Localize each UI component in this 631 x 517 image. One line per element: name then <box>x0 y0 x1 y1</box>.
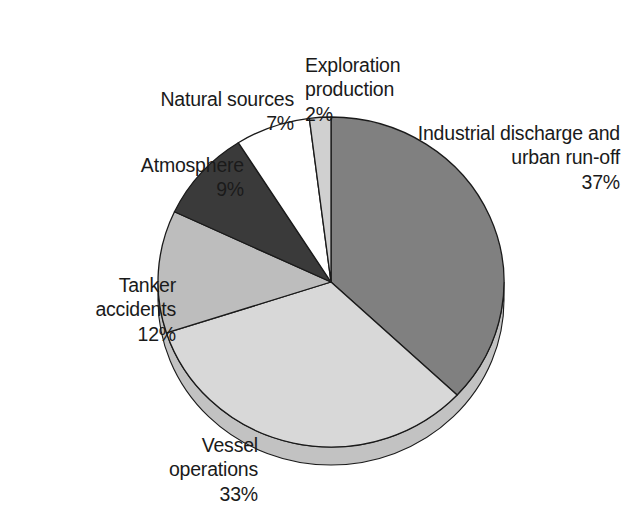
slice-label-industrial-discharge: Industrial discharge and urban run-off 3… <box>375 96 620 219</box>
slice-label-atmosphere: Atmosphere 9% <box>46 128 244 226</box>
slice-label-percent: 33% <box>82 482 258 507</box>
slice-label-name: Natural sources <box>160 88 294 110</box>
slice-label-name: Industrial discharge and urban run-off <box>418 122 620 169</box>
slice-label-percent: 12% <box>20 322 176 347</box>
pie-chart-figure: Exploration production 2% Industrial dis… <box>0 0 631 517</box>
slice-label-percent: 37% <box>375 170 620 195</box>
slice-label-name: Vessel operations <box>169 434 258 481</box>
slice-label-tanker-accidents: Tanker accidents 12% <box>20 248 176 371</box>
slice-label-percent: 9% <box>46 177 244 202</box>
slice-label-name: Tanker accidents <box>95 274 176 321</box>
slice-label-name: Exploration production <box>305 54 400 101</box>
slice-label-vessel-operations: Vessel operations 33% <box>82 408 258 517</box>
slice-label-name: Atmosphere <box>141 154 244 176</box>
